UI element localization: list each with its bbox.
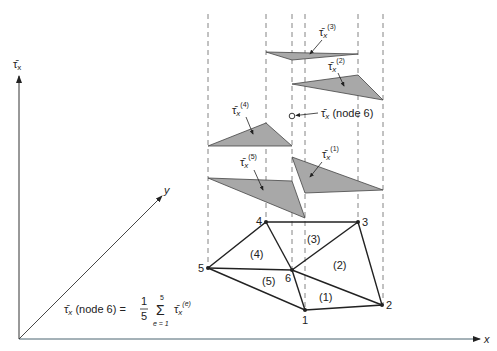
stress-labels: τ̄x(3) τ̄x(2) τ̄x(4) τ̄x(1) τ̄x(5) bbox=[232, 23, 345, 190]
stress-triangle-2 bbox=[292, 75, 383, 100]
formula-frac-den: 5 bbox=[141, 310, 147, 322]
stress-label-5: τ̄x(5) bbox=[240, 153, 257, 170]
averaging-formula: τ̄x (node 6) = 1 5 5 Σ e = 1 τ̄x(e) bbox=[64, 294, 191, 327]
stress-triangle-1 bbox=[292, 157, 383, 193]
node6-average-marker bbox=[289, 113, 295, 119]
stress-label-1: τ̄x(1) bbox=[322, 145, 339, 162]
stress-label-4: τ̄x(4) bbox=[232, 101, 249, 118]
horizontal-axis-label: x bbox=[483, 333, 490, 345]
formula-sum-upper: 5 bbox=[160, 294, 164, 301]
element-label-1: (1) bbox=[319, 291, 332, 303]
node6-callout-label: τ̄x (node 6) bbox=[321, 107, 373, 121]
stress-triangles bbox=[208, 52, 383, 218]
vertical-axis-label: τ̄x bbox=[13, 58, 21, 72]
stress-triangle-5 bbox=[208, 178, 305, 218]
element-label-4: (4) bbox=[250, 248, 263, 260]
node6-callout: τ̄x (node 6) bbox=[289, 107, 373, 121]
formula-sum-lower: e = 1 bbox=[153, 320, 169, 327]
node-label-2: 2 bbox=[386, 299, 392, 311]
finite-element-mesh bbox=[208, 222, 382, 310]
node-label-4: 4 bbox=[256, 215, 262, 227]
node-label-3: 3 bbox=[362, 216, 368, 228]
axes: τ̄x x y bbox=[13, 58, 490, 345]
element-label-5: (5) bbox=[262, 275, 275, 287]
stress-label-2: τ̄x(2) bbox=[328, 57, 345, 74]
node-label-6: 6 bbox=[285, 272, 291, 284]
formula-frac-num: 1 bbox=[141, 295, 147, 307]
formula-sum-symbol: Σ bbox=[156, 302, 165, 318]
element-label-3: (3) bbox=[307, 233, 320, 245]
node-label-5: 5 bbox=[198, 262, 204, 274]
stress-label-3: τ̄x(3) bbox=[319, 23, 336, 40]
node-label-1: 1 bbox=[302, 314, 308, 326]
formula-term: τ̄x(e) bbox=[174, 300, 191, 317]
formula-lhs: τ̄x (node 6) = bbox=[64, 303, 126, 317]
element-label-2: (2) bbox=[333, 259, 346, 271]
stress-smoothing-diagram: τ̄x x y τ̄x(3) τ̄x(2) τ̄x(4) τ̄x(1) τ̄x(… bbox=[0, 0, 497, 351]
depth-axis-label: y bbox=[163, 184, 171, 196]
mesh-nodes bbox=[206, 220, 384, 312]
